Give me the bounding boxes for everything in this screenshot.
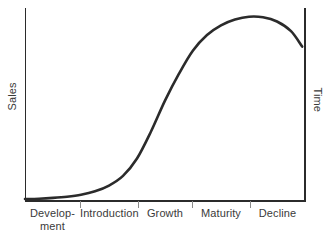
sales-curve-line <box>25 16 302 199</box>
stage-label-development: Develop- ment <box>25 207 80 232</box>
stage-label-introduction: Introduction <box>80 207 138 220</box>
stage-label-maturity: Maturity <box>192 207 250 220</box>
y-axis-label-sales: Sales <box>7 87 18 111</box>
y-axis-label-time: Time <box>312 88 323 110</box>
chart-canvas <box>0 0 328 241</box>
stage-label-growth: Growth <box>138 207 192 220</box>
stage-label-decline: Decline <box>250 207 305 220</box>
product-life-cycle-chart: Sales Time Develop- ment Introduction Gr… <box>0 0 328 241</box>
